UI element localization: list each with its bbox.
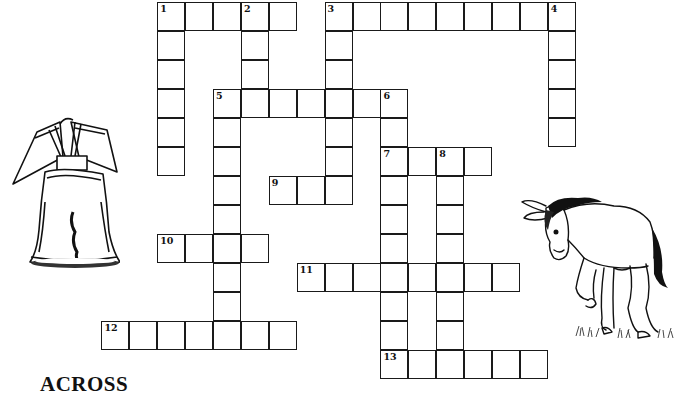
crossword-cell[interactable] bbox=[185, 2, 213, 31]
crossword-cell[interactable] bbox=[492, 350, 520, 379]
crossword-cell[interactable] bbox=[408, 350, 436, 379]
across-clues-heading: ACROSS bbox=[40, 372, 128, 395]
crossword-cell[interactable] bbox=[408, 147, 436, 176]
crossword-cell[interactable] bbox=[353, 263, 381, 292]
crossword-cell[interactable] bbox=[436, 263, 464, 292]
crossword-cell[interactable]: 7 bbox=[380, 147, 408, 176]
crossword-cell[interactable]: 6 bbox=[380, 89, 408, 118]
crossword-cell[interactable] bbox=[213, 292, 241, 321]
crossword-cell[interactable] bbox=[157, 321, 185, 350]
crossword-cell[interactable] bbox=[520, 350, 548, 379]
crossword-cell[interactable] bbox=[436, 292, 464, 321]
crossword-cell[interactable] bbox=[213, 205, 241, 234]
crossword-cell[interactable] bbox=[157, 118, 185, 147]
crossword-cell[interactable] bbox=[185, 234, 213, 263]
crossword-cell[interactable] bbox=[380, 118, 408, 147]
crossword-cell[interactable] bbox=[380, 205, 408, 234]
crossword-cell[interactable] bbox=[157, 60, 185, 89]
clue-number: 10 bbox=[160, 236, 173, 246]
crossword-cell[interactable] bbox=[185, 321, 213, 350]
crossword-cell[interactable] bbox=[241, 321, 269, 350]
crossword-cell[interactable] bbox=[380, 263, 408, 292]
crossword-cell[interactable] bbox=[436, 234, 464, 263]
crossword-cell[interactable] bbox=[408, 263, 436, 292]
clue-number: 9 bbox=[272, 178, 279, 188]
crossword-cell[interactable] bbox=[548, 31, 576, 60]
clue-number: 1 bbox=[160, 4, 167, 14]
clue-number: 7 bbox=[383, 149, 390, 159]
crossword-cell[interactable] bbox=[325, 60, 353, 89]
crossword-cell[interactable] bbox=[241, 60, 269, 89]
crossword-cell[interactable] bbox=[157, 89, 185, 118]
crossword-cell[interactable] bbox=[213, 234, 241, 263]
clue-number: 2 bbox=[244, 4, 251, 14]
crossword-cell[interactable] bbox=[408, 2, 436, 31]
crossword-cell[interactable]: 8 bbox=[436, 147, 464, 176]
crossword-cell[interactable] bbox=[548, 60, 576, 89]
crossword-cell[interactable] bbox=[241, 89, 269, 118]
crossword-cell[interactable] bbox=[213, 147, 241, 176]
crossword-cell[interactable]: 4 bbox=[548, 2, 576, 31]
crossword-cell[interactable] bbox=[520, 2, 548, 31]
crossword-cell[interactable] bbox=[492, 2, 520, 31]
donkey-illustration bbox=[518, 188, 680, 343]
crossword-cell[interactable] bbox=[241, 234, 269, 263]
crossword-cell[interactable] bbox=[464, 350, 492, 379]
crossword-cell[interactable] bbox=[548, 89, 576, 118]
crossword-cell[interactable] bbox=[548, 118, 576, 147]
crossword-cell[interactable]: 11 bbox=[297, 263, 325, 292]
crossword-cell[interactable] bbox=[157, 31, 185, 60]
crossword-cell[interactable] bbox=[325, 89, 353, 118]
crossword-cell[interactable] bbox=[464, 263, 492, 292]
crossword-cell[interactable] bbox=[269, 2, 297, 31]
crossword-cell[interactable] bbox=[269, 321, 297, 350]
clue-number: 8 bbox=[439, 149, 446, 159]
crossword-cell[interactable] bbox=[213, 118, 241, 147]
crossword-cell[interactable]: 13 bbox=[380, 350, 408, 379]
clue-number: 4 bbox=[551, 4, 558, 14]
clue-number: 5 bbox=[216, 91, 223, 101]
crossword-cell[interactable]: 10 bbox=[157, 234, 185, 263]
crossword-cell[interactable] bbox=[380, 2, 408, 31]
crossword-cell[interactable] bbox=[464, 2, 492, 31]
crossword-cell[interactable] bbox=[129, 321, 157, 350]
crossword-cell[interactable] bbox=[325, 263, 353, 292]
crossword-cell[interactable] bbox=[353, 89, 381, 118]
crossword-cell[interactable] bbox=[380, 321, 408, 350]
crossword-cell[interactable] bbox=[436, 350, 464, 379]
crossword-cell[interactable] bbox=[213, 2, 241, 31]
crossword-cell[interactable]: 5 bbox=[213, 89, 241, 118]
crossword-cell[interactable]: 2 bbox=[241, 2, 269, 31]
clue-number: 12 bbox=[104, 323, 117, 333]
crossword-cell[interactable] bbox=[325, 147, 353, 176]
crossword-cell[interactable] bbox=[380, 176, 408, 205]
crossword-cell[interactable] bbox=[492, 263, 520, 292]
crossword-cell[interactable] bbox=[436, 176, 464, 205]
crossword-cell[interactable] bbox=[157, 147, 185, 176]
clue-number: 6 bbox=[383, 91, 390, 101]
crossword-cell[interactable] bbox=[213, 263, 241, 292]
clue-number: 11 bbox=[300, 265, 313, 275]
crossword-cell[interactable] bbox=[436, 321, 464, 350]
crossword-cell[interactable]: 3 bbox=[325, 2, 353, 31]
crossword-cell[interactable] bbox=[353, 2, 381, 31]
crossword-cell[interactable] bbox=[436, 2, 464, 31]
crossword-cell[interactable] bbox=[297, 89, 325, 118]
crossword-cell[interactable] bbox=[297, 176, 325, 205]
crossword-cell[interactable] bbox=[325, 31, 353, 60]
crossword-cell[interactable] bbox=[436, 205, 464, 234]
crossword-cell[interactable]: 9 bbox=[269, 176, 297, 205]
liberty-bell-illustration bbox=[5, 112, 120, 272]
crossword-cell[interactable]: 12 bbox=[101, 321, 129, 350]
crossword-cell[interactable] bbox=[464, 147, 492, 176]
crossword-cell[interactable] bbox=[213, 176, 241, 205]
crossword-cell[interactable]: 1 bbox=[157, 2, 185, 31]
crossword-cell[interactable] bbox=[241, 31, 269, 60]
clue-number: 3 bbox=[328, 4, 335, 14]
crossword-cell[interactable] bbox=[325, 176, 353, 205]
crossword-cell[interactable] bbox=[380, 292, 408, 321]
crossword-cell[interactable] bbox=[380, 234, 408, 263]
crossword-cell[interactable] bbox=[325, 118, 353, 147]
crossword-cell[interactable] bbox=[269, 89, 297, 118]
crossword-cell[interactable] bbox=[213, 321, 241, 350]
